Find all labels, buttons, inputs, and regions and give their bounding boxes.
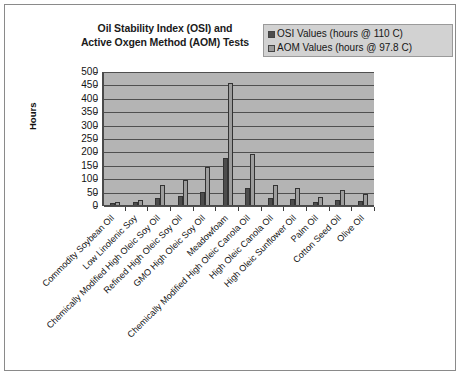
y-axis-tick-mark [94,139,98,140]
y-axis-tick-label: 350 [60,107,98,117]
bar[interactable] [250,154,255,205]
y-axis-tick-label: 500 [60,67,98,77]
x-axis-tick-mark [374,207,375,211]
bar[interactable] [318,197,323,205]
y-axis-tick-label: 0 [60,201,98,211]
bar[interactable] [295,188,300,205]
y-axis-tick-mark [94,72,98,73]
bar[interactable] [183,180,188,205]
bar-group [217,72,240,205]
y-axis-tick-mark [94,85,98,86]
y-axis-tick-label: 400 [60,94,98,104]
y-axis-tick-label: 100 [60,174,98,184]
bar-group [307,72,330,205]
bar-series-container [104,72,374,205]
plot-area [102,72,374,206]
x-axis-tick-mark [125,207,126,211]
x-axis-tick-mark [215,207,216,211]
x-axis-tick-mark [193,207,194,211]
y-axis-tick-label: 50 [60,188,98,198]
chart-legend: OSI Values (hours @ 110 C) AOM Values (h… [263,24,453,57]
y-axis-tick-mark [94,112,98,113]
y-axis-tick-label: 300 [60,121,98,131]
legend-item-aom[interactable]: AOM Values (hours @ 97.8 C) [268,41,449,55]
chart-title: Oil Stability Index (OSI) and Active Oxg… [65,21,265,49]
y-axis-tick-label: 450 [60,80,98,90]
chart-title-line-1: Oil Stability Index (OSI) and [65,21,265,35]
x-axis-tick-mark [306,207,307,211]
x-axis-tick-mark [351,207,352,211]
y-axis-tick-mark [94,126,98,127]
y-axis-tick-label: 250 [60,134,98,144]
legend-label-aom: AOM Values (hours @ 97.8 C) [277,41,412,55]
legend-swatch-osi-icon [268,31,275,38]
x-axis-tick-mark [238,207,239,211]
y-axis-tick-mark [94,206,98,207]
bar-group [149,72,172,205]
legend-label-osi: OSI Values (hours @ 110 C) [277,27,403,41]
bar-group [262,72,285,205]
y-axis-tick-mark [94,99,98,100]
bar-group [127,72,150,205]
bar-group [172,72,195,205]
x-axis-tick-mark [147,207,148,211]
x-axis-tick-labels: Commodity Soybean OilLow Linolenic SoyCh… [102,207,374,327]
plot-area-wrapper [102,72,374,207]
bar-group [329,72,352,205]
bar[interactable] [138,200,143,205]
bar-group [284,72,307,205]
x-axis-tick-mark [170,207,171,211]
y-axis-tick-mark [94,193,98,194]
bar[interactable] [205,167,210,205]
chart-frame: Oil Stability Index (OSI) and Active Oxg… [4,4,456,371]
chart-title-line-2: Active Oxgen Method (AOM) Tests [65,35,265,49]
legend-swatch-aom-icon [268,45,275,52]
bar[interactable] [273,185,278,205]
x-axis-tick-mark [329,207,330,211]
bar[interactable] [363,194,368,205]
x-axis-tick-mark [283,207,284,211]
bar-group [104,72,127,205]
bar[interactable] [160,185,165,205]
bar-group [194,72,217,205]
y-axis-tick-mark [94,179,98,180]
y-axis-tick-label: 200 [60,147,98,157]
bar[interactable] [340,190,345,205]
y-axis-tick-mark [94,166,98,167]
y-axis-tick-label: 150 [60,161,98,171]
y-axis-title: Hours [27,103,38,130]
bar-group [239,72,262,205]
bar[interactable] [115,202,120,205]
y-axis-tick-labels: 500450400350300250200150100500 [60,66,98,212]
legend-item-osi[interactable]: OSI Values (hours @ 110 C) [268,27,449,41]
bar-group [352,72,375,205]
y-axis-tick-mark [94,152,98,153]
bar[interactable] [228,83,233,205]
x-axis-tick-mark [261,207,262,211]
